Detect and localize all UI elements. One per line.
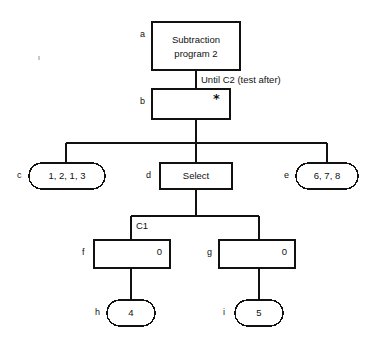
node-tag-e: e: [284, 171, 289, 180]
scan-speck: [38, 56, 40, 60]
node-tag-h: h: [95, 308, 100, 317]
node-tag-f: f: [82, 248, 85, 257]
node-d-text: Select: [160, 170, 232, 182]
node-tag-d: d: [146, 171, 151, 180]
diagram-canvas: a b c d e f g h i Subtraction program 2 …: [0, 0, 371, 343]
iteration-asterisk-marker: *: [213, 92, 220, 105]
node-h-text: 4: [107, 307, 155, 319]
node-g-selection-marker: 0: [267, 246, 287, 258]
node-e-text: 6, 7, 8: [296, 170, 358, 182]
node-a-shape: [152, 22, 240, 70]
node-f-selection-marker: 0: [142, 246, 162, 258]
node-i-text: 5: [235, 307, 283, 319]
node-a-text-line2: program 2: [152, 48, 240, 60]
edge-label-until-c2: Until C2 (test after): [201, 75, 281, 85]
node-tag-i: i: [223, 308, 225, 317]
edge-label-c1: C1: [136, 221, 148, 231]
node-tag-g: g: [207, 248, 212, 257]
node-tag-b: b: [140, 97, 145, 106]
node-a-text-line1: Subtraction: [152, 34, 240, 46]
node-tag-c: c: [17, 171, 22, 180]
node-c-text: 1, 2, 1, 3: [29, 170, 105, 182]
node-tag-a: a: [140, 30, 145, 39]
